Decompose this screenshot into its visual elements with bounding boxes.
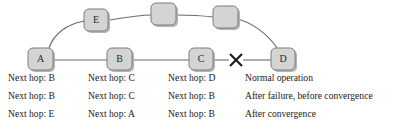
network-topology-diagram: E A B C bbox=[0, 0, 396, 128]
node-unlabeled-2[interactable] bbox=[213, 6, 240, 30]
node-unlabeled-1-box bbox=[151, 3, 176, 25]
node-a-label: A bbox=[37, 53, 45, 64]
link-n2-d bbox=[237, 19, 277, 48]
row-1-node-c-nexthop: Next hop: D bbox=[168, 72, 216, 83]
row-1-node-a-nexthop: Next hop: B bbox=[8, 72, 55, 83]
row-2-node-c-nexthop: Next hop: B bbox=[168, 90, 215, 101]
row-3-node-a-nexthop: Next hop: E bbox=[8, 108, 55, 119]
table-row: Next hop: E Next hop: A Next hop: B Afte… bbox=[8, 108, 316, 119]
node-d-label: D bbox=[279, 53, 286, 64]
row-2-scenario: After failure, before convergence bbox=[245, 90, 373, 101]
node-unlabeled-2-box bbox=[213, 6, 238, 28]
row-2-node-b-nexthop: Next hop: C bbox=[88, 90, 135, 101]
node-unlabeled-1[interactable] bbox=[151, 3, 178, 27]
node-e-label: E bbox=[93, 14, 99, 25]
routing-convergence-figure: E A B C bbox=[0, 0, 396, 128]
table-row: Next hop: B Next hop: C Next hop: D Norm… bbox=[8, 72, 313, 83]
routing-table: Next hop: B Next hop: C Next hop: D Norm… bbox=[8, 72, 373, 119]
row-3-node-c-nexthop: Next hop: B bbox=[168, 108, 215, 119]
row-2-node-a-nexthop: Next hop: B bbox=[8, 90, 55, 101]
node-c-label: C bbox=[198, 53, 205, 64]
node-b[interactable]: B bbox=[107, 48, 134, 72]
link-a-e bbox=[49, 21, 84, 48]
row-3-scenario: After convergence bbox=[245, 108, 316, 119]
link-e-n1 bbox=[110, 15, 151, 20]
row-1-node-b-nexthop: Next hop: C bbox=[88, 72, 135, 83]
table-row: Next hop: B Next hop: C Next hop: B Afte… bbox=[8, 90, 373, 101]
node-e[interactable]: E bbox=[84, 9, 110, 33]
node-d[interactable]: D bbox=[271, 48, 297, 72]
row-3-node-b-nexthop: Next hop: A bbox=[88, 108, 135, 119]
link-n1-n2 bbox=[176, 15, 213, 17]
node-b-label: B bbox=[116, 53, 123, 64]
node-a[interactable]: A bbox=[28, 48, 55, 72]
row-1-scenario: Normal operation bbox=[245, 72, 313, 83]
link-failure-x-icon bbox=[230, 54, 242, 66]
node-c[interactable]: C bbox=[189, 48, 215, 72]
